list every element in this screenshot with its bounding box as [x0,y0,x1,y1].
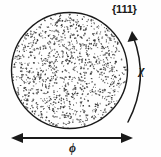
phi-arrowhead-left-icon [11,133,23,143]
diagram-canvas [0,0,161,157]
phi-arrowhead-right-icon [121,133,133,143]
phi-angle-label: ϕ [69,142,76,154]
chi-arrowhead-icon [128,31,139,42]
pole-figure-diagram: {111} χ ϕ [0,0,161,157]
plane-index-label: {111} [112,4,137,15]
chi-angle-label: χ [139,64,145,76]
chi-arc-arrow [128,36,140,122]
